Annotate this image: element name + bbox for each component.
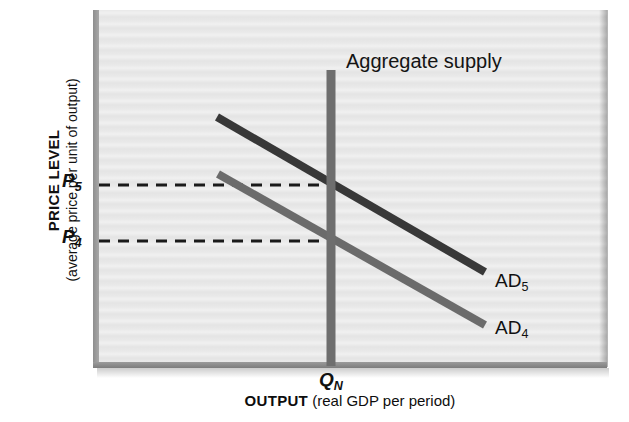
curves-layer	[0, 0, 629, 422]
ad4-label-subscript: 4	[521, 327, 528, 341]
x-tick-qn-base: Q	[319, 369, 334, 390]
x-axis-title-strong: OUTPUT	[245, 392, 308, 409]
y-axis-title-main: PRICE LEVEL	[45, 16, 62, 346]
x-axis-title: OUTPUT (real GDP per period)	[93, 392, 607, 409]
x-tick-qn-subscript: N	[334, 379, 343, 393]
aggregate-supply-demand-chart: Aggregate supply AD5 AD4 P5 P4 QN PRICE …	[0, 0, 629, 422]
ad5-label: AD5	[495, 270, 528, 294]
y-axis-title-sub: (average price per unit of output)	[64, 15, 80, 345]
aggregate-supply-label: Aggregate supply	[346, 50, 502, 72]
ad4-label-base: AD	[495, 317, 521, 338]
aggregate-supply-label-text: Aggregate supply	[346, 50, 502, 72]
ad5-label-subscript: 5	[521, 280, 528, 294]
ad5-label-base: AD	[495, 270, 521, 291]
x-tick-label-qn: QN	[319, 369, 343, 393]
ad4-label: AD4	[495, 317, 528, 341]
x-axis-title-weak: (real GDP per period)	[308, 392, 455, 409]
